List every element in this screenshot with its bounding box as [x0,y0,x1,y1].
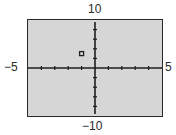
data-point-marker [80,52,84,56]
plot-canvas [0,0,176,135]
